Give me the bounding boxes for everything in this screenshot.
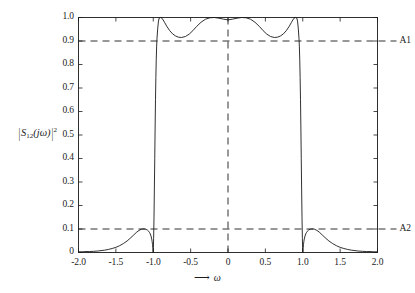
x-tick-label-8: 2.0	[358, 257, 398, 267]
y-tick-label-6: 0.6	[40, 105, 74, 115]
x-tick-label-6: 1.0	[283, 257, 323, 267]
y-label-close-bar: |	[51, 128, 53, 138]
annotation-label-A2: A2	[400, 223, 412, 233]
x-tick-label-7: 1.5	[320, 257, 360, 267]
x-tick-label-1: -1.5	[96, 257, 136, 267]
x-tick-marks	[79, 18, 378, 253]
y-tick-label-4: 0.4	[40, 152, 74, 162]
x-axis-label: ⟶ω	[0, 271, 415, 284]
x-label-omega: ω	[214, 272, 221, 283]
x-tick-label-3: -0.5	[171, 257, 211, 267]
y-tick-label-10: 1.0	[40, 11, 74, 21]
y-tick-label-3: 0.3	[40, 176, 74, 186]
x-tick-label-0: -2.0	[59, 257, 99, 267]
y-label-exponent: 2	[54, 126, 58, 134]
annotation-label-A1: A1	[400, 35, 412, 45]
x-tick-label-4: 0	[208, 257, 248, 267]
chart-figure: 00.10.20.30.40.50.60.70.80.91.0 -2.0-1.5…	[0, 0, 415, 293]
plot-frame	[79, 18, 378, 253]
y-tick-marks	[79, 18, 378, 253]
y-tick-label-7: 0.7	[40, 82, 74, 92]
y-tick-label-0: 0	[40, 246, 74, 256]
y-tick-label-2: 0.2	[40, 199, 74, 209]
y-label-argument: (jω)	[33, 127, 50, 138]
y-tick-label-1: 0.1	[40, 223, 74, 233]
x-tick-label-5: 0.5	[245, 257, 285, 267]
axes-frame	[79, 18, 378, 253]
x-tick-label-2: -1.0	[133, 257, 173, 267]
y-tick-label-9: 0.9	[40, 35, 74, 45]
y-label-open-bar: |	[19, 128, 21, 138]
data-curve-group	[79, 18, 378, 253]
y-tick-label-8: 0.8	[40, 58, 74, 68]
y-axis-label: |S12(jω)|2	[18, 126, 57, 140]
x-label-arrow-icon: ⟶	[194, 271, 209, 283]
reference-lines	[79, 18, 397, 257]
s12-response-curve	[79, 18, 378, 253]
